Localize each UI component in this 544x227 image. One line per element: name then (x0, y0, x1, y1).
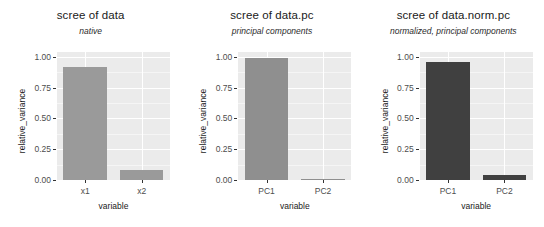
x-tick-mark (504, 180, 505, 183)
x-tick-label-PC2: PC2 (496, 186, 513, 196)
panel-1-plot-area (57, 52, 170, 180)
panel-2-subtitle: principal components (181, 26, 362, 36)
y-tick-label: 0.50 (198, 113, 232, 123)
y-tick-label: 0.75 (380, 83, 414, 93)
x-tick-label-x2: x2 (137, 186, 146, 196)
panel-3-title: scree of data.norm.pc (363, 9, 544, 21)
y-tick-mark (234, 118, 237, 119)
bar-PC1 (245, 58, 289, 180)
panel-3-x-axis-title: variable (420, 201, 533, 211)
y-tick-label: 1.00 (17, 52, 51, 62)
panel-1-x-axis-title: variable (57, 201, 170, 211)
y-tick-mark (416, 180, 419, 181)
bar-x1 (63, 67, 107, 180)
y-tick-label: 0.75 (198, 83, 232, 93)
chart-panel-3: scree of data.norm.pc normalized, princi… (363, 0, 544, 227)
y-tick-label: 0.75 (17, 83, 51, 93)
y-tick-mark (234, 149, 237, 150)
y-tick-mark (234, 57, 237, 58)
y-tick-label: 1.00 (380, 52, 414, 62)
y-tick-mark (53, 118, 56, 119)
y-tick-label: 1.00 (198, 52, 232, 62)
x-tick-mark (448, 180, 449, 183)
panel-3-subtitle: normalized, principal components (363, 26, 544, 36)
chart-panel-2: scree of data.pc principal components re… (181, 0, 362, 227)
y-tick-mark (53, 57, 56, 58)
y-tick-mark (416, 118, 419, 119)
panel-1-subtitle: native (0, 26, 181, 36)
y-tick-label: 0.00 (380, 175, 414, 185)
y-tick-mark (53, 149, 56, 150)
panel-1-title: scree of data (0, 9, 181, 21)
panel-2-title: scree of data.pc (181, 9, 362, 21)
y-tick-mark (53, 88, 56, 89)
y-tick-mark (416, 57, 419, 58)
x-tick-mark (323, 180, 324, 183)
scree-plot-figure: scree of data native relative_variance v… (0, 0, 544, 227)
y-tick-label: 0.25 (198, 144, 232, 154)
panel-2-x-axis-title: variable (238, 201, 351, 211)
y-tick-label: 0.50 (17, 113, 51, 123)
gridline-major (57, 57, 170, 58)
x-tick-label-PC1: PC1 (440, 186, 457, 196)
y-tick-mark (234, 180, 237, 181)
x-tick-label-PC2: PC2 (315, 186, 332, 196)
y-tick-mark (416, 88, 419, 89)
gridline-vertical (504, 52, 505, 180)
y-tick-label: 0.00 (198, 175, 232, 185)
panel-2-plot-area (238, 52, 351, 180)
x-tick-label-PC1: PC1 (258, 186, 275, 196)
x-tick-mark (267, 180, 268, 183)
x-tick-label-x1: x1 (81, 186, 90, 196)
y-tick-mark (234, 88, 237, 89)
chart-panel-1: scree of data native relative_variance v… (0, 0, 181, 227)
bar-PC1 (426, 62, 470, 180)
y-tick-label: 0.25 (17, 144, 51, 154)
gridline-vertical (323, 52, 324, 180)
bar-x2 (120, 170, 164, 180)
x-tick-mark (85, 180, 86, 183)
gridline-vertical (142, 52, 143, 180)
y-tick-label: 0.25 (380, 144, 414, 154)
gridline-major (420, 57, 533, 58)
panel-3-plot-area (420, 52, 533, 180)
x-tick-mark (142, 180, 143, 183)
y-tick-label: 0.50 (380, 113, 414, 123)
y-tick-mark (416, 149, 419, 150)
y-tick-mark (53, 180, 56, 181)
y-tick-label: 0.00 (17, 175, 51, 185)
